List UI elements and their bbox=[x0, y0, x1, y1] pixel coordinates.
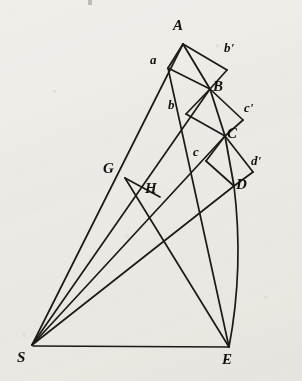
curve-D-to-E-line bbox=[229, 186, 238, 347]
label-S: S bbox=[17, 350, 26, 365]
radius-S-to-C-line bbox=[32, 136, 225, 345]
segment-a-through-H-to-E-line bbox=[168, 68, 229, 347]
label-B: B bbox=[213, 79, 223, 94]
label-c: c bbox=[193, 145, 199, 158]
label-b-prime: b' bbox=[224, 41, 234, 54]
label-H: H bbox=[145, 181, 157, 196]
label-C: C bbox=[227, 126, 237, 141]
radius-S-to-D-line bbox=[32, 186, 234, 345]
stray-ink-mark bbox=[88, 0, 92, 5]
label-D: D bbox=[236, 177, 247, 192]
tangent-B-to-b-line bbox=[186, 89, 210, 114]
label-a: a bbox=[150, 53, 157, 66]
baseline-S-to-E-line bbox=[33, 346, 229, 347]
label-E: E bbox=[222, 352, 232, 367]
tangent-C-to-c-line bbox=[206, 136, 225, 161]
label-A: A bbox=[173, 18, 183, 33]
segment-G-to-E-line bbox=[125, 178, 229, 347]
figure-canvas: A B C D E G H S a b c b' c' d' bbox=[0, 0, 302, 381]
tangent-A-to-a-line bbox=[168, 44, 183, 68]
label-b: b bbox=[168, 98, 175, 111]
label-c-prime: c' bbox=[244, 101, 253, 114]
radius-S-to-B-line bbox=[32, 89, 210, 345]
parallelogram-A-to-bprime-line bbox=[183, 44, 227, 70]
radius-S-to-A-line bbox=[32, 44, 183, 345]
label-d-prime: d' bbox=[251, 154, 261, 167]
parallelogram-C-to-dprime-line bbox=[225, 136, 253, 172]
label-G: G bbox=[103, 161, 114, 176]
